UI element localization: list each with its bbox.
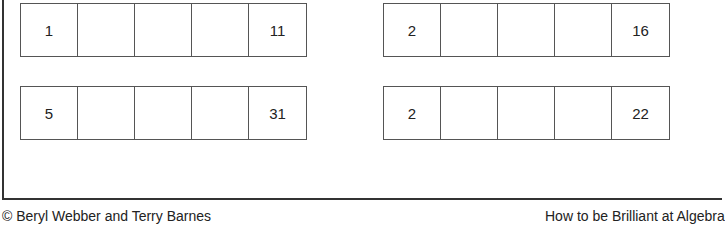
sequence-cell-end: 31 — [249, 87, 306, 139]
sequence-cell-blank[interactable] — [135, 4, 192, 56]
sequence-cell-start: 2 — [384, 87, 441, 139]
sequence-cell-blank[interactable] — [78, 4, 135, 56]
sequence-cell-blank[interactable] — [192, 4, 249, 56]
sequence-cell-blank[interactable] — [498, 4, 555, 56]
sequence-cell-blank[interactable] — [78, 87, 135, 139]
sequence-cell-start: 2 — [384, 4, 441, 56]
sequence-cell-end: 16 — [612, 4, 669, 56]
sequence-cell-blank[interactable] — [441, 87, 498, 139]
sequence-strip-3: 5 31 — [20, 86, 307, 140]
sequence-cell-end: 22 — [612, 87, 669, 139]
sequence-cell-blank[interactable] — [135, 87, 192, 139]
sequence-cell-start: 1 — [21, 4, 78, 56]
sequence-strip-1: 1 11 — [20, 3, 307, 57]
sequence-cell-blank[interactable] — [192, 87, 249, 139]
sequence-cell-start: 5 — [21, 87, 78, 139]
copyright-notice: © Beryl Webber and Terry Barnes — [2, 208, 211, 224]
sequence-cell-blank[interactable] — [498, 87, 555, 139]
sequence-cell-blank[interactable] — [555, 4, 612, 56]
sequence-cell-blank[interactable] — [441, 4, 498, 56]
sequence-cell-blank[interactable] — [555, 87, 612, 139]
sequence-cell-end: 11 — [249, 4, 306, 56]
sequence-strip-4: 2 22 — [383, 86, 670, 140]
book-title: How to be Brilliant at Algebra — [545, 208, 725, 224]
sequence-strip-2: 2 16 — [383, 3, 670, 57]
